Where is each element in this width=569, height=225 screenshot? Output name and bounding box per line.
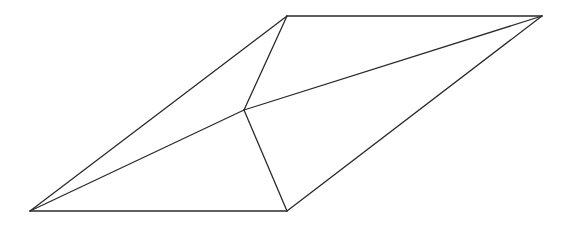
edge-ed [244,16,542,110]
edge-eb [244,110,287,211]
diagram-canvas [0,0,569,225]
edge-ce [244,16,287,110]
edge-ae [30,110,244,211]
quadrilateral-drawing [0,0,569,225]
edge-ac [30,16,287,211]
edge-bd [287,16,542,211]
